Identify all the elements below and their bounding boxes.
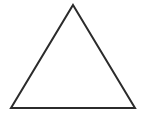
triangle-figure [0,0,145,117]
canvas-background [0,0,145,117]
diagram-canvas [0,0,145,117]
